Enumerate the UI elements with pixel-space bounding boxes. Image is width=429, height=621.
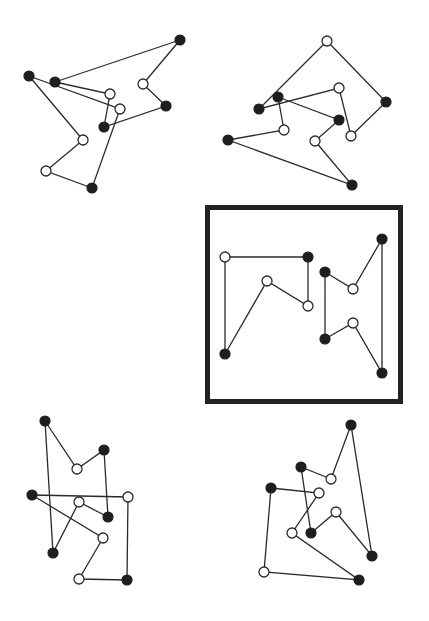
filled-node-icon — [87, 183, 97, 193]
open-node-icon — [74, 574, 84, 584]
open-node-icon — [348, 284, 358, 294]
filled-node-icon — [334, 115, 344, 125]
filled-node-icon — [320, 334, 330, 344]
figure-center-highlighted — [220, 234, 387, 378]
open-node-icon — [98, 533, 108, 543]
open-node-icon — [123, 492, 133, 502]
figure-top-left — [24, 35, 185, 193]
open-node-icon — [220, 252, 230, 262]
open-node-icon — [105, 89, 115, 99]
filled-node-icon — [161, 101, 171, 111]
open-node-icon — [331, 507, 341, 517]
filled-node-icon — [48, 548, 58, 558]
open-node-icon — [262, 276, 272, 286]
filled-node-icon — [122, 575, 132, 585]
open-node-icon — [303, 301, 313, 311]
filled-node-icon — [377, 234, 387, 244]
filled-node-icon — [50, 77, 60, 87]
graph-figures-diagram — [0, 0, 429, 621]
filled-node-icon — [223, 135, 233, 145]
filled-node-icon — [266, 483, 276, 493]
filled-node-icon — [306, 528, 316, 538]
open-node-icon — [74, 497, 84, 507]
open-node-icon — [259, 567, 269, 577]
filled-node-icon — [347, 180, 357, 190]
filled-node-icon — [320, 267, 330, 277]
filled-node-icon — [24, 71, 34, 81]
figure-bottom-left — [27, 416, 133, 585]
figure-bottom-right — [259, 420, 377, 585]
open-node-icon — [348, 318, 358, 328]
filled-node-icon — [273, 92, 283, 102]
polygon-edge-path — [228, 97, 352, 185]
polygon-edge-path — [259, 41, 386, 136]
polygon-edge-path — [325, 239, 382, 373]
filled-node-icon — [27, 490, 37, 500]
filled-node-icon — [254, 104, 264, 114]
filled-node-icon — [296, 462, 306, 472]
filled-node-icon — [346, 420, 356, 430]
open-node-icon — [279, 125, 289, 135]
filled-node-icon — [354, 575, 364, 585]
open-node-icon — [78, 135, 88, 145]
open-node-icon — [322, 36, 332, 46]
polygon-edge-path — [45, 421, 108, 553]
open-node-icon — [326, 474, 336, 484]
filled-node-icon — [220, 349, 230, 359]
polygon-edge-path — [225, 257, 308, 354]
open-node-icon — [310, 136, 320, 146]
filled-node-icon — [377, 368, 387, 378]
polygon-edge-path — [32, 495, 128, 580]
filled-node-icon — [175, 35, 185, 45]
filled-node-icon — [103, 512, 113, 522]
filled-node-icon — [99, 122, 109, 132]
open-node-icon — [334, 83, 344, 93]
filled-node-icon — [99, 445, 109, 455]
filled-node-icon — [381, 97, 391, 107]
open-node-icon — [41, 166, 51, 176]
open-node-icon — [314, 488, 324, 498]
open-node-icon — [115, 104, 125, 114]
open-node-icon — [287, 528, 297, 538]
open-node-icon — [346, 131, 356, 141]
filled-node-icon — [367, 551, 377, 561]
open-node-icon — [72, 464, 82, 474]
filled-node-icon — [303, 252, 313, 262]
filled-node-icon — [40, 416, 50, 426]
figure-top-right — [223, 36, 391, 190]
open-node-icon — [138, 79, 148, 89]
